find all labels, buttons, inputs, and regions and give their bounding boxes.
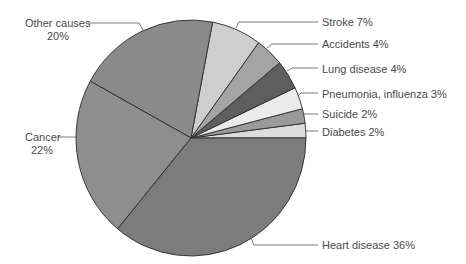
label-cancer-pct: 22% (31, 144, 53, 156)
leader-line-accidents (267, 44, 318, 48)
leader-line-stroke (236, 22, 318, 28)
label-pneumonia: Pneumonia, influenza 3% (322, 88, 447, 100)
label-heart-disease: Heart disease 36% (322, 239, 415, 251)
leader-line-lung (287, 68, 318, 71)
label-cancer: Cancer (25, 131, 61, 143)
label-other-causes: Other causes (25, 17, 91, 29)
leader-line-other (88, 23, 143, 30)
pie-chart: Stroke 7% Accidents 4% Lung disease 4% P… (0, 0, 466, 264)
label-accidents: Accidents 4% (322, 38, 389, 50)
label-lung-disease: Lung disease 4% (322, 63, 407, 75)
leader-line-heart (251, 238, 318, 245)
pie-slices (76, 20, 306, 256)
label-other-causes-pct: 20% (47, 30, 69, 42)
leader-line-pneumonia (298, 93, 318, 96)
label-diabetes: Diabetes 2% (322, 126, 385, 138)
label-stroke: Stroke 7% (322, 16, 373, 28)
label-suicide: Suicide 2% (322, 108, 377, 120)
